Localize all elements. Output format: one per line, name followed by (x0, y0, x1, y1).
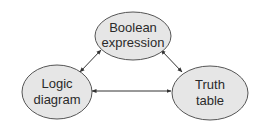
node-boolean-expression: Boolean expression (95, 12, 171, 60)
node-label: Boolean (109, 20, 157, 35)
diagram-canvas: Boolean expression Logic diagram Truth t… (0, 0, 262, 122)
node-label: Logic (41, 76, 73, 91)
node-label: expression (102, 35, 165, 50)
node-label: table (196, 93, 224, 108)
edge-boolean-truth (161, 50, 182, 72)
node-label: Truth (195, 77, 225, 92)
edge-boolean-logic (80, 50, 101, 72)
node-label: diagram (34, 92, 81, 107)
node-truth-table: Truth table (172, 66, 248, 120)
node-logic-diagram: Logic diagram (22, 65, 92, 119)
